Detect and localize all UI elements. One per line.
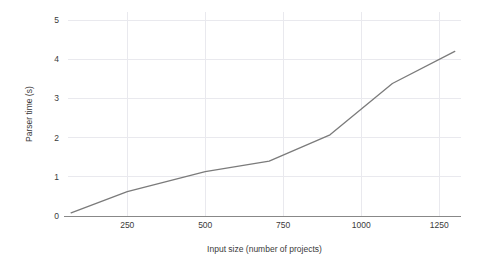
line-chart: 25050075010001250 012345 Input size (num…	[0, 0, 479, 269]
x-tick-label: 750	[276, 220, 290, 230]
y-tick-label: 0	[54, 211, 59, 221]
y-tick-label: 1	[54, 172, 59, 182]
x-tick-label: 500	[198, 220, 212, 230]
x-tick-label: 250	[120, 220, 134, 230]
y-tick-label: 4	[54, 54, 59, 64]
x-tick-label: 1000	[352, 220, 371, 230]
chart-container: 25050075010001250 012345 Input size (num…	[0, 0, 479, 269]
y-tick-label: 2	[54, 133, 59, 143]
x-axis-title: Input size (number of projects)	[207, 244, 322, 254]
y-tick-label: 3	[54, 93, 59, 103]
x-tick-label: 1250	[430, 220, 449, 230]
y-axis-title: Parser time (s)	[24, 86, 34, 142]
chart-background	[0, 0, 479, 269]
y-tick-label: 5	[54, 15, 59, 25]
